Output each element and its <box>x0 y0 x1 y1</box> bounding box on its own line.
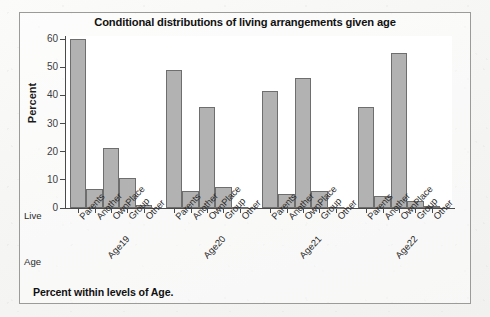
y-tick-label: 40 <box>47 89 58 101</box>
y-tick-label: 0 <box>52 202 58 214</box>
y-tick-mark <box>60 95 65 96</box>
y-axis-line <box>65 36 66 209</box>
y-tick-mark <box>60 208 65 209</box>
y-tick-label: 60 <box>47 33 58 45</box>
bar <box>358 107 374 208</box>
bar <box>295 78 311 208</box>
y-tick: 30 <box>36 118 65 130</box>
y-tick-mark <box>60 151 65 152</box>
y-tick: 10 <box>36 174 65 186</box>
row-header-live: Live <box>24 210 42 221</box>
y-tick: 60 <box>36 33 65 45</box>
bar <box>391 53 407 208</box>
bar <box>262 91 278 208</box>
y-tick-label: 50 <box>47 61 58 73</box>
y-tick: 40 <box>36 89 65 101</box>
chart-page: Conditional distributions of living arra… <box>0 0 490 317</box>
y-tick-mark <box>60 179 65 180</box>
y-tick-label: 10 <box>47 174 58 186</box>
y-tick: 20 <box>36 146 65 158</box>
chart-footer-note: Percent within levels of Age. <box>33 286 173 298</box>
y-tick-label: 30 <box>47 118 58 130</box>
y-tick-mark <box>60 39 65 40</box>
chart-title: Conditional distributions of living arra… <box>19 16 471 28</box>
row-header-age: Age <box>24 256 41 267</box>
bar <box>70 39 86 208</box>
y-tick-mark <box>60 67 65 68</box>
y-tick-label: 20 <box>47 146 58 158</box>
y-tick-mark <box>60 123 65 124</box>
y-tick: 50 <box>36 61 65 73</box>
bar <box>166 70 182 208</box>
